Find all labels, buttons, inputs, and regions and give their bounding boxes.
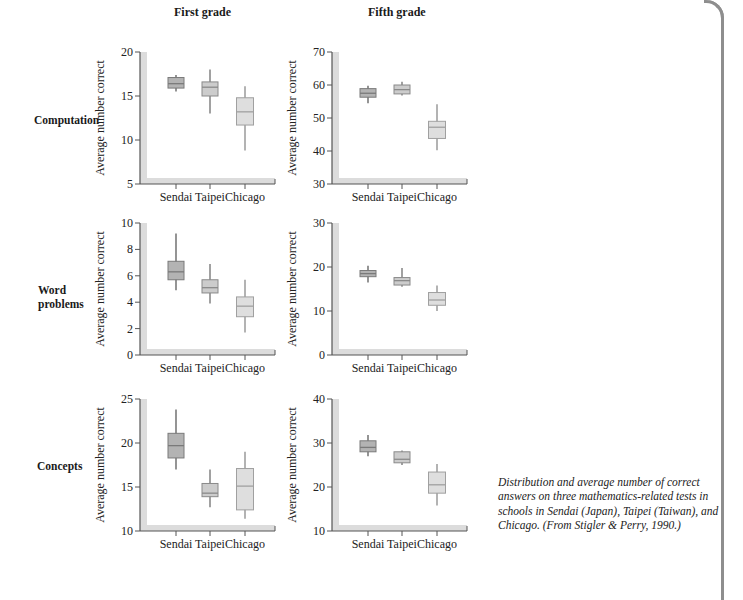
y-tick-label: 10 (313, 524, 325, 538)
y-tick-label: 15 (121, 89, 133, 103)
boxplot-fifth-grade-computation: Average number correct3040506070SendaiTa… (282, 44, 472, 204)
y-tick-label: 10 (313, 304, 325, 318)
x-tick-label: Sendai (352, 190, 385, 204)
box-chicago (237, 452, 254, 519)
y-tick-label: 20 (121, 436, 133, 450)
y-tick-label: 8 (127, 242, 133, 256)
y-axis-label: Average number correct (285, 406, 299, 522)
box-chicago (429, 464, 446, 505)
box-taipei (202, 264, 218, 304)
x-tick-label: Sendai (160, 361, 193, 375)
x-axis-bar (140, 178, 275, 184)
x-tick-label: Taipei (195, 190, 225, 204)
box-sendai (360, 266, 376, 283)
y-axis-label: Average number correct (93, 406, 107, 522)
boxplot-first-grade-word-problems: Average number correct0246810SendaiTaipe… (90, 215, 280, 375)
x-tick-label: Chicago (417, 190, 457, 204)
y-axis-label: Average number correct (285, 230, 299, 346)
row-label-concepts: Concepts (37, 459, 82, 473)
boxplot-fifth-grade-word-problems: Average number correct0102030SendaiTaipe… (282, 215, 472, 375)
y-tick-label: 0 (127, 348, 133, 362)
y-axis-label: Average number correct (93, 230, 107, 346)
boxplot-first-grade-concepts: Average number correct10152025SendaiTaip… (90, 391, 280, 551)
box-sendai (168, 234, 184, 291)
x-tick-label: Taipei (195, 361, 225, 375)
x-axis-bar (140, 349, 275, 355)
box-sendai (360, 435, 376, 456)
x-tick-label: Taipei (387, 537, 417, 551)
x-axis-bar (332, 178, 467, 184)
y-axis-label: Average number correct (93, 59, 107, 175)
box-sendai (360, 86, 376, 103)
y-tick-label: 20 (313, 260, 325, 274)
y-tick-label: 70 (313, 45, 325, 59)
box-sendai (168, 410, 184, 470)
y-tick-label: 40 (313, 392, 325, 406)
y-tick-label: 30 (313, 177, 325, 191)
y-tick-label: 20 (121, 45, 133, 59)
boxplot-first-grade-computation: Average number correct5101520SendaiTaipe… (90, 44, 280, 204)
y-tick-label: 5 (127, 177, 133, 191)
x-tick-label: Chicago (225, 537, 265, 551)
column-title-fifth-grade: Fifth grade (368, 5, 426, 20)
box-chicago (237, 280, 254, 333)
x-tick-label: Chicago (225, 361, 265, 375)
x-axis-bar (140, 525, 275, 531)
y-tick-label: 15 (121, 480, 133, 494)
y-tick-label: 40 (313, 144, 325, 158)
y-tick-label: 0 (319, 348, 325, 362)
y-axis-bar (332, 52, 339, 184)
y-tick-label: 10 (121, 133, 133, 147)
box-taipei (394, 268, 410, 287)
y-tick-label: 10 (121, 216, 133, 230)
y-tick-label: 30 (313, 436, 325, 450)
y-tick-label: 2 (127, 322, 133, 336)
box-chicago (429, 104, 446, 150)
y-axis-bar (140, 223, 147, 355)
figure-caption: Distribution and average number of corre… (498, 475, 723, 533)
row-label-word-problems: Word problems (38, 283, 98, 311)
y-tick-label: 60 (313, 78, 325, 92)
x-tick-label: Chicago (417, 361, 457, 375)
column-title-first-grade: First grade (174, 5, 231, 20)
x-axis-bar (332, 349, 467, 355)
x-tick-label: Sendai (352, 361, 385, 375)
box-taipei (394, 450, 410, 465)
x-tick-label: Chicago (225, 190, 265, 204)
x-tick-label: Sendai (352, 537, 385, 551)
y-tick-label: 4 (127, 295, 133, 309)
y-axis-bar (332, 399, 339, 531)
boxplot-fifth-grade-concepts: Average number correct10203040SendaiTaip… (282, 391, 472, 551)
x-tick-label: Chicago (417, 537, 457, 551)
box-taipei (394, 82, 410, 96)
y-tick-label: 6 (127, 269, 133, 283)
y-tick-label: 30 (313, 216, 325, 230)
y-tick-label: 10 (121, 524, 133, 538)
y-axis-bar (332, 223, 339, 355)
x-axis-bar (332, 525, 467, 531)
x-tick-label: Taipei (387, 190, 417, 204)
y-axis-bar (140, 52, 147, 184)
x-tick-label: Sendai (160, 190, 193, 204)
y-tick-label: 20 (313, 480, 325, 494)
y-axis-bar (140, 399, 147, 531)
box-taipei (202, 70, 218, 114)
y-tick-label: 25 (121, 392, 133, 406)
y-tick-label: 50 (313, 111, 325, 125)
box-taipei (202, 469, 218, 507)
y-axis-label: Average number correct (285, 59, 299, 175)
box-chicago (237, 86, 254, 150)
x-tick-label: Sendai (160, 537, 193, 551)
x-tick-label: Taipei (387, 361, 417, 375)
box-sendai (168, 75, 184, 92)
x-tick-label: Taipei (195, 537, 225, 551)
box-chicago (429, 285, 446, 311)
